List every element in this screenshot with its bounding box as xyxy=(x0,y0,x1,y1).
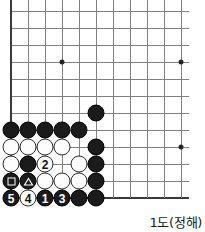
stone-black[interactable] xyxy=(20,122,37,139)
stone-black[interactable] xyxy=(88,105,105,122)
marked-stone-square[interactable] xyxy=(3,173,20,190)
stone-white[interactable] xyxy=(71,156,88,173)
stone-black[interactable] xyxy=(88,139,105,156)
stone-white[interactable] xyxy=(54,139,71,156)
move-stone-5[interactable]: 5 xyxy=(3,190,20,207)
diagram-caption: 1도(정해) xyxy=(149,212,202,231)
square-mark-icon xyxy=(7,177,15,185)
stone-white[interactable] xyxy=(3,139,20,156)
grid-line-vertical-11 xyxy=(181,0,182,198)
triangle-mark-icon xyxy=(23,177,33,185)
grid-line-vertical-8 xyxy=(130,0,131,198)
grid-line-horizontal-3 xyxy=(11,45,189,46)
go-diagram-root: 25413 1도(정해) xyxy=(0,0,205,232)
stone-black[interactable] xyxy=(71,122,88,139)
move-stone-1[interactable]: 1 xyxy=(37,190,54,207)
stone-black[interactable] xyxy=(54,122,71,139)
stone-black[interactable] xyxy=(88,156,105,173)
stone-white[interactable] xyxy=(20,139,37,156)
move-stone-4[interactable]: 4 xyxy=(20,190,37,207)
move-stone-3[interactable]: 3 xyxy=(54,190,71,207)
marked-stone-triangle[interactable] xyxy=(20,173,37,190)
move-number-label: 3 xyxy=(55,191,70,206)
star-point-2 xyxy=(179,60,184,65)
grid-line-horizontal-4 xyxy=(11,62,189,63)
move-number-label: 5 xyxy=(4,191,19,206)
grid-line-vertical-10 xyxy=(164,0,165,198)
move-number-label: 2 xyxy=(38,157,53,172)
grid-line-horizontal-2 xyxy=(11,28,189,29)
star-point-3 xyxy=(179,145,184,150)
grid-line-horizontal-1 xyxy=(11,11,189,12)
stone-black[interactable] xyxy=(88,190,105,207)
triangle-mark-inner xyxy=(25,179,31,184)
go-board[interactable]: 25413 xyxy=(0,0,205,215)
grid-line-vertical-7 xyxy=(113,0,114,198)
stone-black[interactable] xyxy=(37,122,54,139)
grid-line-vertical-9 xyxy=(147,0,148,198)
stone-white[interactable] xyxy=(3,156,20,173)
stone-white[interactable] xyxy=(54,173,71,190)
stone-black[interactable] xyxy=(71,190,88,207)
stone-white[interactable] xyxy=(37,173,54,190)
stone-white[interactable] xyxy=(37,139,54,156)
move-stone-2[interactable]: 2 xyxy=(37,156,54,173)
grid-line-horizontal-6 xyxy=(11,96,189,97)
stone-black[interactable] xyxy=(3,122,20,139)
stone-black[interactable] xyxy=(88,173,105,190)
grid-line-horizontal-5 xyxy=(11,79,189,80)
move-number-label: 4 xyxy=(21,191,36,206)
grid-line-vertical-4 xyxy=(62,0,63,198)
stone-black[interactable] xyxy=(20,156,37,173)
star-point-1 xyxy=(60,60,65,65)
move-number-label: 1 xyxy=(38,191,53,206)
stone-white[interactable] xyxy=(71,173,88,190)
